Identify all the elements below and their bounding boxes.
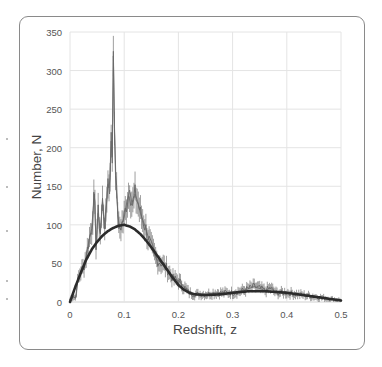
- x-tick-label: 0.5: [334, 309, 347, 320]
- y-axis-label: Number, N: [29, 135, 44, 200]
- x-tick-label: 0.1: [118, 309, 131, 320]
- observed-counts-series: [70, 36, 341, 302]
- x-tick-label: 0.2: [172, 309, 185, 320]
- chart: 050100150200250300350 00.10.20.30.40.5 R…: [0, 0, 382, 367]
- x-tick-label: 0: [67, 309, 72, 320]
- x-axis-label: Redshift, z: [173, 322, 237, 337]
- y-tick-label: 50: [51, 258, 62, 269]
- y-tick-label: 0: [57, 297, 62, 308]
- y-tick-label: 300: [46, 66, 62, 77]
- x-tick-labels: 00.10.20.30.40.5: [67, 309, 347, 320]
- y-tick-label: 250: [46, 104, 62, 115]
- y-tick-label: 150: [46, 181, 62, 192]
- x-tick-label: 0.4: [280, 309, 293, 320]
- y-tick-label: 200: [46, 143, 62, 154]
- x-tick-label: 0.3: [226, 309, 239, 320]
- y-tick-label: 350: [46, 27, 62, 38]
- y-tick-label: 100: [46, 220, 62, 231]
- y-tick-labels: 050100150200250300350: [46, 27, 62, 308]
